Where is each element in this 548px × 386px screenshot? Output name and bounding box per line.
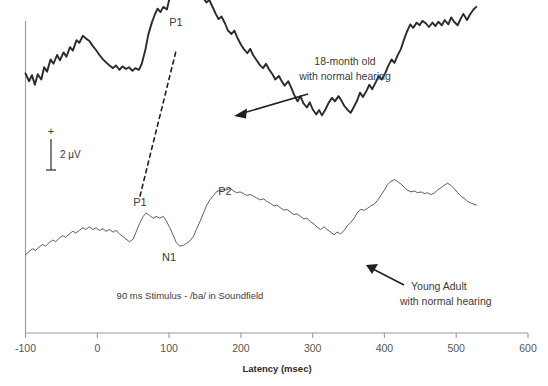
peak-label-p1-infant: P1: [169, 16, 182, 28]
waveform-plot: -100 0 100 200 300 400 500 600 Latency (…: [0, 0, 548, 386]
annotation-infant-line1: 18-month old: [314, 55, 375, 67]
amplitude-scale-bar: + 2 µV: [46, 125, 81, 170]
xtick-label-400: 400: [376, 342, 394, 354]
xtick-label-100: 100: [160, 342, 178, 354]
x-axis-title: Latency (msec): [242, 363, 311, 374]
x-axis-ticks: [26, 333, 529, 338]
annotation-adult-arrow-line: [371, 268, 404, 285]
annotation-adult-line2: with normal hearing: [399, 295, 492, 307]
annotation-infant-arrow-head: [234, 109, 247, 119]
peak-label-p1-adult: P1: [133, 196, 146, 208]
polarity-positive-sign: +: [48, 125, 54, 137]
trace-young-adult: [26, 180, 477, 255]
xtick-label-0: 0: [94, 342, 100, 354]
scale-bar-label: 2 µV: [60, 149, 81, 160]
peak-label-n1-adult: N1: [162, 251, 176, 263]
erp-waveform-figure: -100 0 100 200 300 400 500 600 Latency (…: [0, 0, 548, 386]
xtick-label-minus100: -100: [15, 342, 36, 354]
annotation-infant-arrow-line: [240, 94, 308, 114]
annotation-infant-line2: with normal hearing: [298, 70, 391, 82]
xtick-label-200: 200: [232, 342, 250, 354]
xtick-label-500: 500: [447, 342, 465, 354]
xtick-label-600: 600: [519, 342, 537, 354]
annotation-adult-line1: Young Adult: [411, 280, 467, 292]
annotation-adult: Young Adult with normal hearing: [366, 264, 492, 307]
xtick-label-300: 300: [304, 342, 322, 354]
p1-latency-connector: [140, 49, 177, 196]
annotation-adult-arrow-head: [366, 264, 378, 274]
trace-infant-18-month: [26, 0, 477, 115]
stimulus-note: 90 ms Stimulus - /ba/ in Soundfield: [117, 290, 264, 301]
peak-label-p2-adult: P2: [218, 185, 231, 197]
